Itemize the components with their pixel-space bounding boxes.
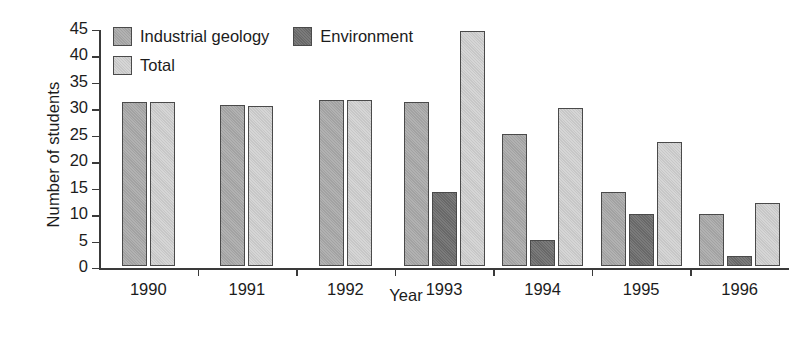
y-axis-tick: 10 <box>92 215 99 216</box>
bar <box>432 192 457 266</box>
y-axis-tick: 35 <box>92 83 99 84</box>
y-axis-tick: 25 <box>92 136 99 137</box>
legend-item-industrial[interactable]: Industrial geology <box>113 27 269 46</box>
y-axis-tick: 40 <box>92 56 99 57</box>
bar <box>122 102 147 266</box>
legend-swatch-environment-icon <box>293 27 312 46</box>
y-axis-tick-label: 20 <box>54 151 88 170</box>
legend-swatch-total-icon <box>113 56 132 75</box>
y-axis-tick-label: 30 <box>54 98 88 117</box>
legend-label: Total <box>140 57 175 74</box>
y-axis-tick-label: 0 <box>54 257 88 276</box>
bar-chart: Number of students 051015202530354045 19… <box>0 0 812 339</box>
bar <box>601 192 626 266</box>
bar <box>727 256 752 267</box>
x-axis-tick <box>296 269 297 276</box>
bar <box>530 240 555 266</box>
legend-item-total[interactable]: Total <box>113 56 175 75</box>
x-axis-tick <box>198 269 199 276</box>
y-axis-tick-label: 40 <box>54 45 88 64</box>
x-axis-tick <box>592 269 593 276</box>
y-axis-tick: 15 <box>92 189 99 190</box>
legend-item-environment[interactable]: Environment <box>293 27 413 46</box>
bar <box>699 214 724 267</box>
y-axis-tick-label: 25 <box>54 125 88 144</box>
legend-label: Environment <box>320 28 413 45</box>
x-axis-line <box>99 268 789 270</box>
bar <box>460 31 485 266</box>
plot-area: 051015202530354045 199019911992199319941… <box>99 30 789 268</box>
y-axis-tick-label: 5 <box>54 231 88 250</box>
y-axis-tick-label: 45 <box>54 19 88 38</box>
bar <box>629 214 654 267</box>
legend-row: Total <box>113 56 175 75</box>
bar <box>150 102 175 266</box>
bar <box>755 203 780 266</box>
y-axis-tick-label: 35 <box>54 72 88 91</box>
x-axis-tick <box>493 269 494 276</box>
y-axis-tick: 45 <box>92 30 99 31</box>
y-axis-tick: 30 <box>92 109 99 110</box>
y-axis-tick: 5 <box>92 242 99 243</box>
bar <box>248 106 273 266</box>
bar <box>347 100 372 267</box>
x-axis-tick <box>690 269 691 276</box>
x-axis-title: Year <box>0 286 812 305</box>
bar <box>220 105 245 266</box>
legend-swatch-industrial-icon <box>113 27 132 46</box>
y-axis-tick: 0 <box>92 268 99 269</box>
y-axis-tick: 20 <box>92 162 99 163</box>
y-axis-tick-label: 10 <box>54 204 88 223</box>
bar <box>558 108 583 267</box>
bar <box>404 102 429 266</box>
bar <box>502 134 527 266</box>
x-axis-tick <box>395 269 396 276</box>
legend-row: Industrial geologyEnvironment <box>113 27 413 46</box>
legend-label: Industrial geology <box>140 28 269 45</box>
y-axis-line <box>99 30 101 269</box>
bar <box>657 142 682 266</box>
bar <box>319 100 344 267</box>
y-axis-tick-label: 15 <box>54 178 88 197</box>
